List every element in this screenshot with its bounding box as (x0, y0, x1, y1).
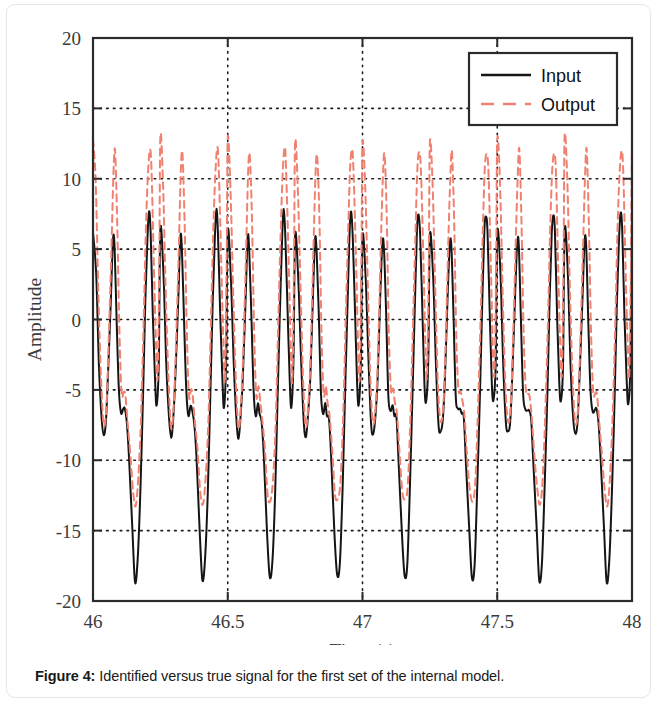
figure-card: -20-15-10-5051015204646.54747.548Time (s… (6, 4, 651, 698)
y-tick-label: -15 (56, 521, 81, 542)
y-tick-label: 10 (62, 169, 81, 190)
y-tick-label: -20 (56, 591, 81, 612)
y-axis-title: Amplitude (24, 278, 45, 361)
x-tick-label: 47 (353, 611, 372, 632)
x-tick-label: 48 (623, 611, 642, 632)
figure-caption: Figure 4: Identified versus true signal … (35, 668, 635, 684)
y-tick-label: -5 (65, 380, 81, 401)
amplitude-vs-time-chart: -20-15-10-5051015204646.54747.548Time (s… (7, 5, 657, 645)
chart-plot-area: -20-15-10-5051015204646.54747.548Time (s… (7, 5, 657, 645)
y-tick-label: 5 (72, 239, 82, 260)
y-tick-label: 20 (62, 28, 81, 49)
figure-caption-label: Figure 4: (35, 668, 95, 684)
x-axis-title: Time (s) (330, 640, 396, 645)
x-tick-label: 46.5 (211, 611, 244, 632)
legend-label-output[interactable]: Output (541, 95, 595, 115)
chart-legend[interactable]: InputOutput (469, 53, 617, 125)
legend-label-input[interactable]: Input (541, 66, 581, 86)
x-tick-label: 47.5 (481, 611, 514, 632)
y-tick-label: 15 (62, 98, 81, 119)
y-tick-label: -10 (56, 450, 81, 471)
y-tick-label: 0 (72, 310, 82, 331)
figure-caption-text: Identified versus true signal for the fi… (95, 668, 504, 684)
x-tick-label: 46 (84, 611, 103, 632)
